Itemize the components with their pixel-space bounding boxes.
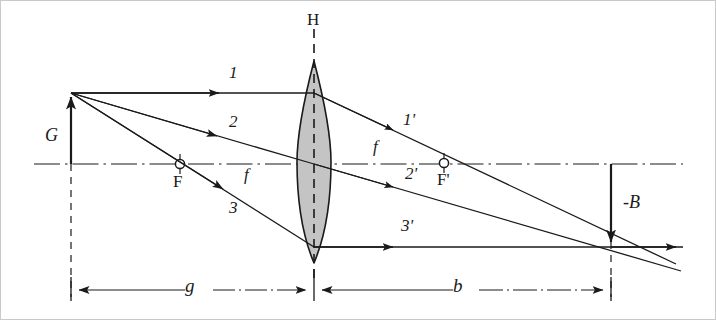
label-principal-plane-H: H <box>307 11 319 28</box>
diagram-canvas <box>1 1 716 320</box>
label-focal-length-left-f: f <box>244 166 249 183</box>
label-focal-point-F: F <box>173 173 182 190</box>
ray-1-prime-refracted <box>314 93 676 264</box>
label-object-height-G: G <box>45 126 58 144</box>
label-ray-2-prime: 2' <box>405 165 417 182</box>
optics-ray-diagram: H G -B F F' f f g b 1 2 3 1' 2' 3' <box>0 0 716 320</box>
label-focal-length-right-f: f <box>373 138 378 155</box>
label-image-distance-b: b <box>453 276 463 295</box>
label-image-height-B: -B <box>623 193 640 211</box>
ray-2-incident <box>71 93 314 164</box>
label-ray-1-prime: 1' <box>403 111 415 128</box>
label-ray-3-prime: 3' <box>401 217 413 234</box>
label-ray-3: 3 <box>229 199 238 216</box>
label-ray-2: 2 <box>229 113 238 130</box>
ray-3-incident <box>71 93 314 247</box>
label-focal-point-F-prime: F' <box>437 171 450 188</box>
label-object-distance-g: g <box>185 276 195 295</box>
label-ray-1: 1 <box>229 64 238 81</box>
dimension-image-distance-b <box>322 277 611 301</box>
construction-lines <box>71 164 611 297</box>
